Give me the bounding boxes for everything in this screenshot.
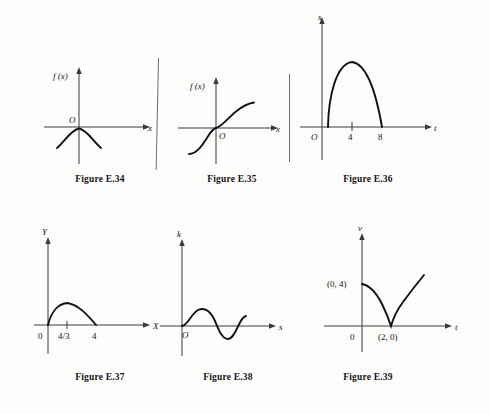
figure-sheet: f (x) x O Figure E.34 f (x) x O Figure E… [0, 0, 490, 414]
y-axis-label: f (x) [190, 81, 205, 91]
y-axis-label: Y [42, 227, 48, 237]
caption-e35: Figure E.35 [176, 174, 288, 184]
point-label-2-0: (2, 0) [378, 332, 398, 342]
origin-label: O [311, 132, 318, 142]
origin-label: O [219, 131, 226, 141]
origin-label: O [69, 115, 76, 125]
caption-e37: Figure E.37 [44, 372, 156, 382]
origin-label: 0 [38, 331, 43, 341]
figure-e34-plot: f (x) x O [44, 60, 156, 170]
origin-label: O [182, 330, 189, 340]
point-label-0-4: (0, 4) [327, 279, 347, 289]
x-axis-arrowhead [425, 124, 432, 129]
figure-e39-plot: v t (0, 4) 0 (2, 0) [312, 222, 472, 362]
x-axis-arrowhead [269, 323, 276, 328]
x-axis-label: x [147, 123, 152, 133]
y-axis-arrowhead [76, 67, 81, 74]
y-axis-label: v [358, 223, 362, 233]
figure-e38-plot: k s O [160, 222, 300, 362]
y-axis-label: f (x) [53, 71, 68, 81]
x-axis-label: x [275, 124, 280, 134]
figure-e35: f (x) x O [176, 66, 288, 170]
figure-e36: s t O 4 8 [300, 12, 450, 170]
curve-e36 [328, 62, 382, 127]
caption-e36: Figure E.36 [312, 174, 424, 184]
y-axis-arrowhead [179, 239, 184, 246]
figure-e34: f (x) x O [44, 60, 156, 170]
figure-e38: k s O [160, 222, 300, 362]
x-axis-label: t [434, 123, 437, 133]
figure-e39: v t (0, 4) 0 (2, 0) [312, 222, 472, 362]
caption-e38: Figure E.38 [172, 372, 284, 382]
x-axis-label: t [455, 322, 458, 332]
y-axis-arrowhead [213, 77, 218, 84]
x-axis-arrowhead [143, 322, 150, 327]
curve-e38 [182, 309, 246, 339]
figure-e35-plot: f (x) x O [176, 66, 288, 170]
y-axis-label: k [177, 229, 182, 239]
figure-e37: Y X 0 4/3 4 [34, 222, 174, 362]
curve-e37 [48, 303, 96, 325]
y-axis-arrowhead [359, 233, 364, 240]
tick-label-8: 8 [378, 132, 383, 142]
origin-label: 0 [350, 332, 355, 342]
x-axis-label: s [279, 322, 283, 332]
tick-label-4: 4 [92, 331, 97, 341]
tick-label-4: 4 [348, 132, 353, 142]
x-axis-arrowhead [445, 323, 452, 328]
y-axis-label: s [318, 12, 322, 22]
y-axis-arrowhead [45, 237, 50, 244]
figure-e37-plot: Y X 0 4/3 4 [34, 222, 174, 362]
column-divider-1 [156, 58, 159, 170]
column-divider-2 [289, 74, 290, 162]
caption-e34: Figure E.34 [44, 174, 156, 184]
x-axis-label: X [152, 321, 159, 331]
caption-e39: Figure E.39 [312, 372, 424, 382]
curve-e39 [362, 275, 424, 326]
figure-e36-plot: s t O 4 8 [300, 12, 450, 170]
tick-label-4-3: 4/3 [58, 331, 70, 341]
